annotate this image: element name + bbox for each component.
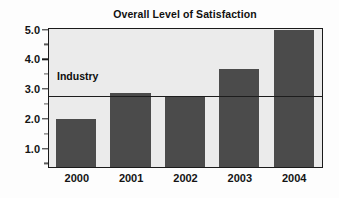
- bar-2000: [56, 119, 96, 167]
- y-tick-label: 3.0: [25, 83, 40, 95]
- industry-reference-label: Industry: [57, 70, 98, 82]
- x-tick-label-2002: 2002: [173, 172, 197, 184]
- x-tick-label-2000: 2000: [65, 172, 89, 184]
- x-tick-label-2003: 2003: [228, 172, 252, 184]
- y-axis: 1.02.03.04.05.0: [0, 0, 48, 198]
- bar-2004: [274, 30, 314, 167]
- x-tick-label-2004: 2004: [282, 172, 306, 184]
- chart-figure: Overall Level of Satisfaction 1.02.03.04…: [0, 0, 339, 198]
- y-tick-label: 2.0: [25, 113, 40, 125]
- bar-2001: [110, 93, 150, 167]
- plot-area: Industry: [48, 28, 323, 168]
- bar-2002: [165, 97, 205, 167]
- y-tick-label: 1.0: [25, 143, 40, 155]
- industry-reference-line: [49, 96, 322, 97]
- bar-2003: [219, 69, 259, 167]
- x-tick-label-2001: 2001: [119, 172, 143, 184]
- x-axis: 20002001200220032004: [48, 172, 323, 194]
- plot-inner: Industry: [49, 29, 322, 167]
- y-tick-label: 5.0: [25, 24, 40, 36]
- chart-title: Overall Level of Satisfaction: [48, 8, 322, 20]
- y-tick-label: 4.0: [25, 53, 40, 65]
